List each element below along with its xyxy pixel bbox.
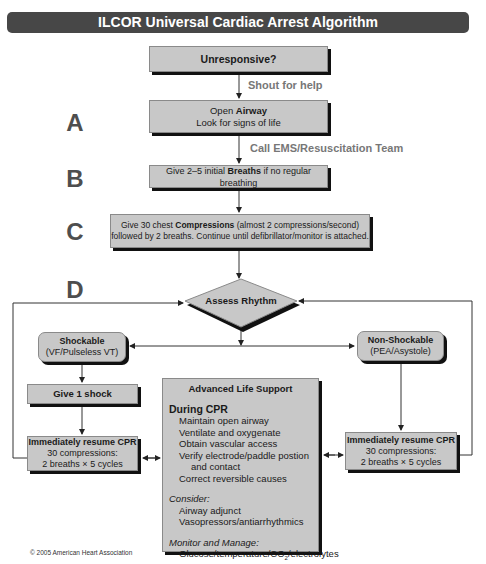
shout-for-help-note: Shout for help bbox=[248, 79, 323, 91]
als-monitor-item: Glucose/temperature/CO2/electrolytes bbox=[169, 548, 312, 564]
als-consider-item: Airway adjunct bbox=[169, 505, 312, 517]
als-monitor-heading: Monitor and Manage: bbox=[169, 537, 312, 549]
copyright: © 2005 American Heart Association bbox=[30, 549, 132, 556]
airway-pre: Open bbox=[210, 105, 236, 116]
advanced-life-support-box: Advanced Life Support During CPR Maintai… bbox=[162, 378, 319, 552]
airway-line2: Look for signs of life bbox=[196, 117, 281, 129]
als-item: Obtain vascular access bbox=[169, 438, 312, 450]
als-item: Ventilate and oxygenate bbox=[169, 427, 312, 439]
non-shockable-title: Non-Shockable bbox=[368, 335, 434, 346]
breaths-box: Give 2–5 initial Breaths if no regular b… bbox=[149, 165, 328, 188]
non-shockable-cpr-title: Immediately resume CPR bbox=[347, 435, 455, 446]
non-shockable-sub: (PEA/Asystole) bbox=[370, 346, 431, 357]
step-letter-d: D bbox=[60, 276, 90, 304]
assess-rhythm-label: Assess Rhythm bbox=[185, 295, 297, 306]
breaths-bold: Breaths bbox=[228, 166, 262, 176]
compressions-line2: followed by 2 breaths. Continue until de… bbox=[111, 231, 369, 242]
als-consider-item: Vasopressors/antiarrhythmics bbox=[169, 516, 312, 528]
airway-box: Open Airway Look for signs of life bbox=[149, 100, 328, 133]
als-title: Advanced Life Support bbox=[169, 383, 312, 395]
unresponsive-box: Unresponsive? bbox=[149, 46, 328, 72]
compressions-post: (almost 2 compressions/second) bbox=[234, 220, 359, 230]
non-shockable-cpr-line2: 2 breaths × 5 cycles bbox=[361, 457, 441, 468]
non-shockable-box: Non-Shockable (PEA/Asystole) bbox=[357, 331, 444, 361]
als-item: and contact bbox=[169, 461, 312, 473]
unresponsive-label: Unresponsive? bbox=[201, 53, 277, 65]
shockable-cpr-box: Immediately resume CPR 30 compressions: … bbox=[27, 436, 138, 471]
als-item: Verify electrode/paddle postion bbox=[169, 450, 312, 462]
step-letter-b: B bbox=[60, 165, 90, 193]
step-letter-c: C bbox=[60, 218, 90, 246]
airway-bold: Airway bbox=[236, 105, 267, 116]
non-shockable-cpr-box: Immediately resume CPR 30 compressions: … bbox=[345, 432, 457, 470]
als-during-cpr-heading: During CPR bbox=[169, 404, 312, 416]
breaths-pre: Give 2–5 initial bbox=[166, 166, 228, 176]
call-ems-note: Call EMS/Resuscitation Team bbox=[250, 142, 403, 154]
shockable-title: Shockable bbox=[59, 336, 104, 347]
compressions-box: Give 30 chest Compressions (almost 2 com… bbox=[110, 214, 370, 248]
step-letter-a: A bbox=[60, 109, 90, 137]
als-consider-heading: Consider: bbox=[169, 493, 312, 505]
als-monitor-post: /electrolytes bbox=[288, 548, 339, 559]
shockable-sub: (VF/Pulseless VT) bbox=[46, 347, 119, 358]
shockable-box: Shockable (VF/Pulseless VT) bbox=[38, 332, 126, 362]
shockable-cpr-line2: 2 breaths × 5 cycles bbox=[42, 459, 122, 470]
shockable-cpr-title: Immediately resume CPR bbox=[28, 437, 136, 448]
als-item: Correct reversible causes bbox=[169, 473, 312, 485]
als-item: Maintain open airway bbox=[169, 415, 312, 427]
compressions-pre: Give 30 chest bbox=[121, 220, 175, 230]
shockable-cpr-line1: 30 compressions: bbox=[47, 448, 118, 459]
compressions-bold: Compressions bbox=[175, 220, 234, 230]
give-shock-box: Give 1 shock bbox=[27, 384, 138, 404]
als-monitor-pre: Glucose/temperature/CO bbox=[179, 548, 285, 559]
non-shockable-cpr-line1: 30 compressions: bbox=[366, 446, 437, 457]
give-shock-label: Give 1 shock bbox=[53, 388, 112, 400]
